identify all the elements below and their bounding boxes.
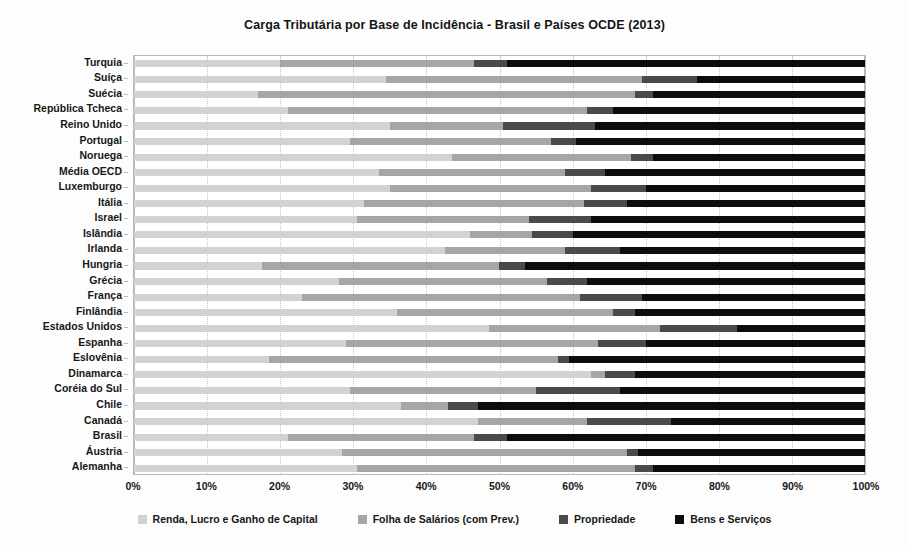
- bar-segment: [525, 262, 865, 269]
- bar-segment: [134, 169, 379, 176]
- bar-segment: [653, 91, 865, 98]
- bar-row: [134, 60, 865, 67]
- bar-segment: [613, 309, 635, 316]
- bar-segment: [269, 356, 558, 363]
- legend-label: Bens e Serviços: [690, 513, 771, 525]
- x-axis-labels: 0%10%20%30%40%50%60%70%80%90%100%: [133, 480, 866, 500]
- bar-segment: [350, 387, 536, 394]
- y-axis-label-israel: Israel: [95, 212, 122, 223]
- y-axis-label-chile: Chile: [96, 399, 122, 410]
- bar-segment: [346, 340, 598, 347]
- stacked-bar: [134, 216, 865, 223]
- bar-segment: [569, 356, 865, 363]
- stacked-bar: [134, 60, 865, 67]
- legend-item-folha-de-sal-rios-com-prev-[interactable]: Folha de Salários (com Prev.): [358, 513, 519, 525]
- bar-row: [134, 262, 865, 269]
- bar-segment: [620, 387, 865, 394]
- bar-row: [134, 169, 865, 176]
- bar-segment: [635, 91, 653, 98]
- bar-segment: [134, 294, 302, 301]
- stacked-bar: [134, 309, 865, 316]
- bar-row: [134, 122, 865, 129]
- bar-segment: [573, 231, 865, 238]
- x-axis-label-80%: 80%: [709, 480, 730, 492]
- bar-segment: [134, 76, 386, 83]
- bar-segment: [390, 122, 503, 129]
- bar-segment: [507, 60, 865, 67]
- bar-segment: [134, 356, 269, 363]
- bar-segment: [591, 185, 646, 192]
- y-axis-label-luxemburgo: Luxemburgo: [58, 181, 122, 192]
- y-axis-label-rep-blica-tcheca: República Tcheca: [33, 103, 122, 114]
- y-axis-tick: [124, 327, 128, 328]
- bar-segment: [386, 76, 642, 83]
- bar-segment: [134, 465, 357, 472]
- bar-segment: [646, 340, 865, 347]
- bar-row: [134, 340, 865, 347]
- bar-segment: [134, 154, 452, 161]
- stacked-bar: [134, 107, 865, 114]
- stacked-bar: [134, 449, 865, 456]
- bar-segment: [587, 278, 865, 285]
- bar-segment: [474, 434, 507, 441]
- y-axis-labels: TurquiaSuíçaSuéciaRepública TchecaReino …: [0, 55, 128, 475]
- bar-row: [134, 278, 865, 285]
- y-axis-tick: [124, 187, 128, 188]
- bar-segment: [302, 294, 580, 301]
- legend-swatch-icon: [559, 515, 568, 524]
- y-axis-label-fran-a: França: [88, 290, 122, 301]
- y-axis-tick: [124, 234, 128, 235]
- bar-segment: [258, 91, 634, 98]
- bar-row: [134, 154, 865, 161]
- bar-segment: [576, 138, 865, 145]
- bar-segment: [134, 278, 339, 285]
- bar-segment: [591, 216, 865, 223]
- legend-item-propriedade[interactable]: Propriedade: [559, 513, 635, 525]
- y-axis-label-turquia: Turquia: [84, 57, 122, 68]
- bar-segment: [551, 138, 577, 145]
- y-axis-label-estados-unidos: Estados Unidos: [43, 321, 122, 332]
- bar-segment: [134, 60, 280, 67]
- bar-segment: [529, 216, 591, 223]
- bar-segment: [134, 325, 489, 332]
- bar-segment: [587, 418, 671, 425]
- bar-segment: [558, 356, 569, 363]
- stacked-bar: [134, 340, 865, 347]
- stacked-bar: [134, 278, 865, 285]
- stacked-bar: [134, 325, 865, 332]
- bar-segment: [134, 185, 390, 192]
- y-axis-label-irlanda: Irlanda: [88, 243, 122, 254]
- bar-row: [134, 325, 865, 332]
- y-axis-label-alemanha: Alemanha: [72, 461, 122, 472]
- y-axis-label-it-lia: Itália: [98, 197, 122, 208]
- bar-segment: [499, 262, 525, 269]
- bar-row: [134, 387, 865, 394]
- bar-segment: [503, 122, 594, 129]
- bar-segment: [134, 107, 288, 114]
- bar-segment: [635, 465, 653, 472]
- bar-segment: [288, 107, 588, 114]
- y-axis-label-isl-ndia: Islândia: [83, 228, 122, 239]
- bar-segment: [342, 449, 627, 456]
- bar-segment: [631, 154, 653, 161]
- legend-swatch-icon: [138, 515, 147, 524]
- bar-segment: [605, 371, 634, 378]
- y-axis-label-noruega: Noruega: [79, 150, 122, 161]
- bar-row: [134, 356, 865, 363]
- bar-segment: [627, 200, 865, 207]
- bar-segment: [489, 325, 661, 332]
- y-axis-tick: [124, 94, 128, 95]
- legend-label: Propriedade: [574, 513, 635, 525]
- stacked-bar: [134, 387, 865, 394]
- bar-segment: [134, 371, 591, 378]
- chart-title: Carga Tributária por Base de Incidência …: [0, 18, 909, 32]
- bar-segment: [737, 325, 865, 332]
- legend-item-bens-e-servi-os[interactable]: Bens e Serviços: [675, 513, 771, 525]
- bar-segment: [357, 465, 635, 472]
- bar-row: [134, 185, 865, 192]
- bar-segment: [565, 247, 620, 254]
- bar-segment: [390, 185, 591, 192]
- x-axis-label-90%: 90%: [782, 480, 803, 492]
- y-axis-label-reino-unido: Reino Unido: [60, 119, 122, 130]
- legend-item-renda-lucro-e-ganho-de-capital[interactable]: Renda, Lucro e Ganho de Capital: [138, 513, 318, 525]
